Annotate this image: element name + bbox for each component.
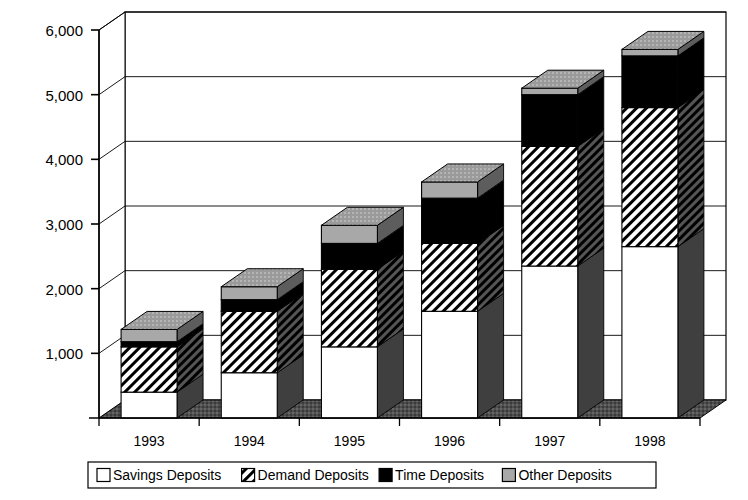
bar-group	[221, 269, 303, 418]
bar-segment-front	[221, 311, 277, 372]
bar-segment-front	[422, 243, 478, 311]
bar-segment-side	[478, 293, 504, 418]
bar-segment-front	[622, 49, 678, 55]
bar-segment-side	[678, 229, 704, 418]
bar-segment-front	[422, 182, 478, 198]
bar-segment-front	[622, 247, 678, 418]
bar-segment-front	[522, 146, 578, 266]
bar-group	[121, 311, 203, 418]
bar-group	[522, 70, 604, 418]
bar-segment-side	[678, 90, 704, 247]
stacked-bar-chart-3d: 1,0002,0003,0004,0005,0006,0001993199419…	[0, 0, 748, 500]
bar-segment-front	[622, 108, 678, 247]
x-tick-label: 1997	[534, 433, 565, 449]
bar-segment-front	[121, 347, 177, 392]
y-tick-label: 3,000	[45, 216, 83, 233]
bar-segment-front	[422, 198, 478, 243]
y-tick-label: 4,000	[45, 151, 83, 168]
chart-legend: Savings DepositsDemand DepositsTime Depo…	[88, 462, 656, 488]
x-tick-label: 1998	[634, 433, 665, 449]
bar-segment-side	[578, 128, 604, 266]
x-tick-label: 1995	[334, 433, 365, 449]
y-tick-label: 2,000	[45, 281, 83, 298]
legend-label: Time Deposits	[395, 467, 484, 483]
y-tick-label: 1,000	[45, 345, 83, 362]
legend-swatch-hatch	[242, 469, 255, 482]
bar-group	[321, 207, 403, 418]
bar-segment-front	[522, 88, 578, 94]
legend-label: Demand Deposits	[258, 467, 369, 483]
legend-swatch-white	[97, 469, 110, 482]
y-tick-label: 5,000	[45, 87, 83, 104]
bar-segment-front	[321, 225, 377, 243]
y-tick-label: 6,000	[45, 22, 83, 39]
chart-container: 1,0002,0003,0004,0005,0006,0001993199419…	[0, 0, 748, 500]
bar-segment-side	[578, 248, 604, 418]
legend-swatch-gray	[502, 469, 515, 482]
bar-segment-front	[321, 347, 377, 418]
legend-label: Savings Deposits	[113, 467, 221, 483]
bar-segment-front	[221, 287, 277, 300]
bar-segment-front	[121, 329, 177, 341]
bar-segment-front	[221, 373, 277, 418]
legend-label: Other Deposits	[518, 467, 611, 483]
bar-group	[422, 164, 504, 418]
bar-segment-front	[221, 300, 277, 312]
bar-segment-front	[522, 266, 578, 418]
bar-segment-front	[422, 311, 478, 418]
x-tick-label: 1993	[134, 433, 165, 449]
bar-group	[622, 31, 704, 418]
bar-segment-front	[121, 342, 177, 347]
bar-segment-front	[321, 243, 377, 269]
x-tick-label: 1994	[234, 433, 265, 449]
bar-segment-front	[321, 269, 377, 347]
bar-segment-front	[522, 95, 578, 147]
bar-segment-front	[622, 56, 678, 108]
legend-swatch-black	[379, 469, 392, 482]
bar-segment-front	[121, 392, 177, 418]
x-tick-label: 1996	[434, 433, 465, 449]
